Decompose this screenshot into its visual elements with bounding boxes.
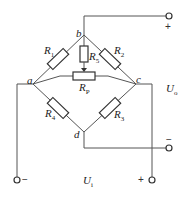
label-rp: RP	[78, 81, 90, 96]
output-minus-sign: −	[166, 134, 172, 145]
wire-a-rp	[33, 76, 73, 84]
resistor-r5	[80, 46, 88, 62]
node-label-a: a	[27, 74, 33, 86]
terminal-input-minus	[14, 177, 20, 183]
node-label-b: b	[76, 27, 82, 39]
terminal-output-plus	[166, 13, 172, 19]
node-label-c: c	[136, 73, 141, 85]
node-label-d: d	[74, 128, 80, 140]
label-r5: R5	[88, 50, 100, 65]
wire-b-to-output-plus	[84, 16, 166, 35]
label-r2: R2	[113, 44, 125, 59]
output-plus-sign: +	[165, 21, 171, 32]
label-r1: R1	[43, 44, 55, 59]
wire-rp-c	[95, 76, 136, 84]
label-output-voltage: Uo	[166, 82, 178, 97]
resistor-rp	[73, 72, 95, 80]
terminal-output-minus	[166, 145, 172, 151]
wire-a-to-input-minus	[17, 84, 33, 177]
input-plus-sign: +	[138, 174, 144, 185]
label-r3: R3	[113, 108, 125, 123]
label-input-voltage: Ui	[83, 174, 93, 189]
wire-c-to-input-plus	[136, 84, 152, 177]
input-minus-sign: −	[22, 174, 28, 185]
bridge-circuit-diagram: + + − − b a c d R1 R2 R3 R4 R5 RP Uo Ui	[0, 0, 188, 203]
wire-d-to-output-minus	[84, 132, 166, 148]
terminal-input-plus	[149, 177, 155, 183]
